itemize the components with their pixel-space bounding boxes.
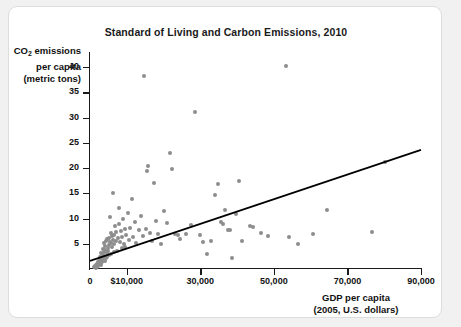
scatter-point (240, 239, 244, 243)
scatter-point (221, 222, 225, 226)
scatter-point (216, 182, 220, 186)
scatter-point (325, 208, 329, 212)
y-axis-label-line3: (metric tons) (23, 73, 81, 84)
y-tick-label: 40 (49, 61, 79, 71)
scatter-point (259, 231, 263, 235)
x-tick-label: 50,000 (244, 276, 304, 286)
scatter-point (123, 245, 127, 249)
scatter-point (115, 249, 119, 253)
scatter-point (209, 239, 213, 243)
scatter-point (99, 263, 103, 267)
scatter-point (117, 206, 121, 210)
scatter-point (152, 181, 156, 185)
scatter-point (103, 259, 107, 263)
scatter-point (156, 232, 160, 236)
x-tick-mark (421, 269, 422, 275)
y-axis-label-line1: CO2 emissions (14, 45, 81, 56)
scatter-point (223, 208, 227, 212)
y-tick-mark (83, 118, 89, 119)
y-tick-label: 30 (49, 112, 79, 122)
y-tick-label: 5 (49, 238, 79, 248)
y-tick-label: 10 (49, 213, 79, 223)
x-axis-title: GDP per capita (2005, U.S. dollars) (261, 292, 451, 317)
scatter-point (139, 214, 143, 218)
scatter-point (170, 167, 174, 171)
scatter-plot-area (90, 52, 421, 269)
x-tick-mark (200, 269, 201, 275)
scatter-point (144, 227, 148, 231)
y-tick-mark (83, 244, 89, 245)
x-tick-mark (274, 269, 275, 275)
chart-title: Standard of Living and Carbon Emissions,… (9, 26, 443, 38)
scatter-point (168, 151, 172, 155)
trend-line-segment (90, 150, 421, 261)
trend-line (90, 52, 421, 269)
scatter-point (123, 227, 127, 231)
x-axis-label-line1: GDP per capita (322, 292, 390, 303)
scatter-point (117, 222, 121, 226)
scatter-point (184, 232, 188, 236)
y-tick-label: 15 (49, 187, 79, 197)
y-tick-mark (83, 92, 89, 93)
x-tick-label: $10,000 (97, 276, 157, 286)
scatter-point (141, 234, 145, 238)
y-tick-mark (83, 143, 89, 144)
scatter-point (165, 221, 169, 225)
scatter-point (162, 209, 166, 213)
x-tick-label: 90,000 (391, 276, 451, 286)
scatter-point (178, 237, 182, 241)
x-tick-mark (347, 269, 348, 275)
scatter-point (134, 241, 138, 245)
scatter-point (383, 160, 387, 164)
scatter-point (213, 193, 217, 197)
scatter-point (145, 169, 149, 173)
y-axis-label-suffix: emissions (32, 45, 81, 56)
y-tick-label: 35 (49, 86, 79, 96)
y-tick-mark (83, 193, 89, 194)
y-tick-mark (83, 168, 89, 169)
scatter-point (146, 164, 150, 168)
scatter-point (234, 212, 238, 216)
scatter-point (133, 220, 137, 224)
scatter-point (176, 233, 180, 237)
scatter-point (121, 217, 125, 221)
scatter-point (287, 235, 291, 239)
scatter-point (198, 233, 202, 237)
y-tick-mark (83, 219, 89, 220)
scatter-point (114, 230, 118, 234)
scatter-point (230, 256, 234, 260)
scatter-point (148, 231, 152, 235)
scatter-point (126, 211, 130, 215)
scatter-point (108, 215, 112, 219)
scatter-point (228, 228, 232, 232)
scatter-point (111, 191, 115, 195)
scatter-point (189, 223, 193, 227)
scatter-point (370, 230, 374, 234)
scatter-point (201, 240, 205, 244)
scatter-point (284, 64, 288, 68)
scatter-point (205, 252, 209, 256)
scatter-point (266, 234, 270, 238)
scatter-point (150, 239, 154, 243)
x-axis-label-line2: (2005, U.S. dollars) (313, 304, 398, 315)
y-tick-mark (83, 67, 89, 68)
figure-card: Standard of Living and Carbon Emissions,… (8, 6, 442, 318)
scatter-point (296, 242, 300, 246)
y-tick-label: 20 (49, 162, 79, 172)
scatter-point (237, 179, 241, 183)
scatter-point (154, 219, 158, 223)
y-axis-label-prefix: CO (14, 45, 28, 56)
y-tick-label: 25 (49, 137, 79, 147)
scatter-point (131, 235, 135, 239)
scatter-point (124, 233, 128, 237)
scatter-point (130, 197, 134, 201)
scatter-point (128, 226, 132, 230)
scatter-point (137, 228, 141, 232)
x-tick-mark (127, 269, 128, 275)
scatter-point (311, 232, 315, 236)
scatter-point (193, 110, 197, 114)
scatter-point (251, 225, 255, 229)
x-tick-label: 70,000 (317, 276, 377, 286)
scatter-point (142, 74, 146, 78)
x-tick-label: 30,000 (170, 276, 230, 286)
